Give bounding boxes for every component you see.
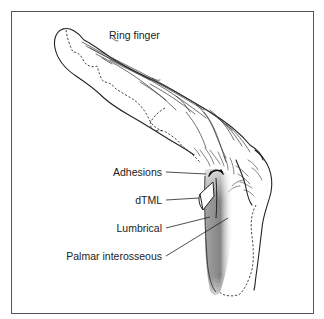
- label-ring-finger: Ring finger: [109, 29, 160, 41]
- leader-dtml: [166, 198, 199, 200]
- label-dtml: dTML: [135, 194, 162, 206]
- leader-adhesions: [166, 172, 206, 174]
- leader-lumbrical: [166, 217, 210, 228]
- label-lumbrical: Lumbrical: [116, 222, 162, 234]
- label-adhesions: Adhesions: [113, 166, 162, 178]
- label-palmar-interosseous: Palmar interosseous: [66, 250, 162, 262]
- extensor-tendon-lines: [82, 38, 250, 162]
- ring-finger-illustration: [0, 0, 324, 319]
